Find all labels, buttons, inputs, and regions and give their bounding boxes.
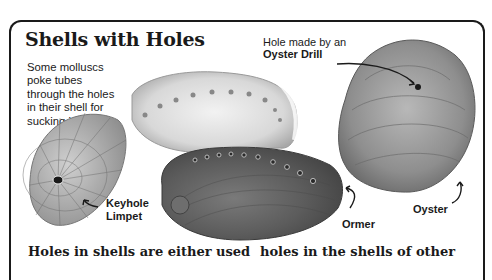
oyster-label: Oyster — [413, 203, 448, 215]
callout-species: Oyster Drill — [263, 48, 346, 60]
body-text-left-column: Holes in shells are either used — [28, 244, 250, 259]
oyster-drill-hole — [415, 84, 421, 90]
callout-line: Hole made by an — [263, 36, 346, 48]
label-line: Keyhole — [106, 197, 149, 210]
body-text-right-column: holes in the shells of other — [260, 244, 455, 259]
ormer-outer-shell — [162, 147, 343, 240]
oyster-shell — [339, 40, 475, 192]
oyster-arrow-icon — [452, 182, 461, 203]
ormer-arrow-icon — [346, 188, 355, 208]
ormer-inner-shell — [132, 72, 297, 152]
keyhole-limpet-label: Keyhole Limpet — [106, 197, 149, 223]
oyster-drill-callout: Hole made by an Oyster Drill — [263, 36, 346, 60]
label-line: Limpet — [106, 210, 149, 223]
ormer-label: Ormer — [342, 218, 375, 230]
